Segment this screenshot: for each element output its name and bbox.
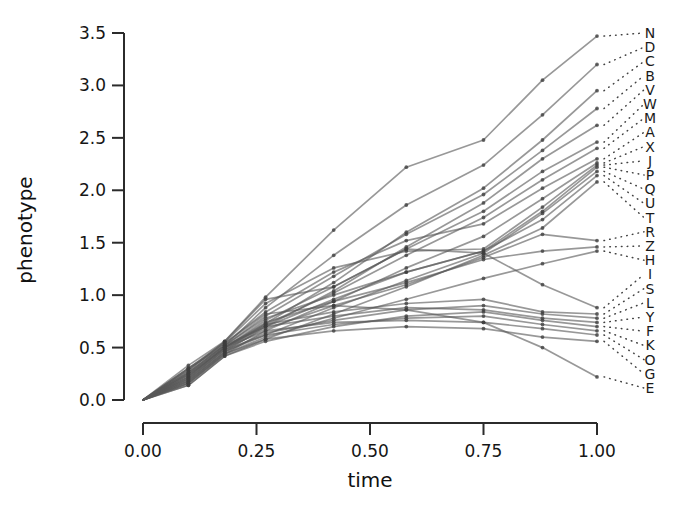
trajectory-vertex [595,174,599,178]
trajectory-vertex [595,249,599,253]
trajectory-vertex [541,327,545,331]
trajectory-vertex [404,318,408,322]
trajectory-vertex [332,321,336,325]
trajectory-vertex [332,285,336,289]
trajectory-vertex [541,212,545,216]
trajectory-vertex [482,193,486,197]
trajectory-vertex [187,381,191,385]
trajectory-vertex [187,373,191,377]
trajectory-vertex [541,149,545,153]
trajectory-vertex [595,316,599,320]
trajectory-vertex [264,312,268,316]
trajectory-vertex [482,216,486,220]
trajectory-vertex [482,186,486,190]
trajectory-vertex [541,323,545,327]
leader-line-Z [604,246,644,247]
leader-line-I [604,274,644,307]
trajectory-vertex [404,302,408,306]
trajectory-vertex [541,170,545,174]
trajectory-vertex [595,306,599,310]
trajectory-vertex [404,239,408,243]
trajectory-vertex [187,367,191,371]
trajectory-vertex [482,209,486,213]
leader-line-X [604,147,644,163]
leader-line-Y [604,317,644,322]
y-axis-tick-label: 2.0 [79,180,106,200]
trajectory-vertex [404,297,408,301]
leader-line-G [604,341,644,374]
trajectory-vertex [482,314,486,318]
trajectory-vertex [223,342,227,346]
trajectory-vertex [332,329,336,333]
trajectory-vertex [541,346,545,350]
trajectory-vertex [223,346,227,350]
trajectory-vertex [404,270,408,274]
trajectory-vertex [595,123,599,127]
trajectory-vertex [264,302,268,306]
trajectory-vertex [595,375,599,379]
trajectory-vertex [541,226,545,230]
trajectory-vertex [595,329,599,333]
trajectory-vertex [404,165,408,169]
trajectory-vertex [541,78,545,82]
trajectory-vertex [482,304,486,308]
trajectory-vertex [482,235,486,239]
trajectory-vertex [541,232,545,236]
trajectory-vertex [541,205,545,209]
trajectory-vertex [541,113,545,117]
trajectory-vertex [482,258,486,262]
trajectory-vertex [595,165,599,169]
trajectory-vertex [223,352,227,356]
trajectory-line-N [143,36,597,400]
trajectory-line-I [143,249,597,400]
trajectory-vertex [541,318,545,322]
trajectory-vertex [332,314,336,318]
trajectory-vertex [332,281,336,285]
trajectory-vertex [595,333,599,337]
trajectory-vertex [187,377,191,381]
trajectory-vertex [595,63,599,67]
trajectory-vertex [264,333,268,337]
x-axis-title: time [347,468,392,492]
trajectory-plot: 0.00.51.01.52.02.53.03.50.000.250.500.75… [0,0,689,517]
series-label-E: E [646,380,655,396]
trajectory-vertex [404,232,408,236]
trajectory-vertex [541,283,545,287]
trajectory-vertex [332,310,336,314]
trajectory-vertex [541,249,545,253]
y-axis-tick-label: 0.5 [79,338,106,358]
trajectory-vertex [264,297,268,301]
leader-line-M [604,118,644,148]
trajectory-vertex [482,310,486,314]
y-axis-tick-label: 1.0 [79,285,106,305]
leader-line-H [604,251,644,260]
y-axis-tick-label: 2.5 [79,128,106,148]
leader-line-A [604,132,644,158]
trajectory-vertex [332,266,336,270]
x-axis-tick-label: 0.50 [351,441,389,461]
leader-line-F [604,327,644,332]
trajectory-vertex [404,203,408,207]
trajectory-vertex [541,262,545,266]
trajectory-vertex [595,312,599,316]
trajectory-vertex [482,138,486,142]
trajectory-vertex [595,170,599,174]
trajectory-vertex [404,308,408,312]
trajectory-vertex [595,325,599,329]
trajectory-vertex [595,146,599,150]
trajectory-vertex [404,253,408,257]
trajectory-vertex [595,180,599,184]
trajectory-vertex [332,304,336,308]
x-axis-tick-label: 1.00 [578,441,616,461]
trajectory-vertex [264,329,268,333]
trajectory-vertex [332,293,336,297]
trajectory-lines-group [143,36,597,400]
trajectory-vertex [482,163,486,167]
trajectory-vertex [264,337,268,341]
trajectory-vertex [595,89,599,93]
y-axis-tick-label: 0.0 [79,390,106,410]
trajectory-vertex [482,327,486,331]
trajectory-vertex [541,178,545,182]
trajectory-line-E [143,306,597,400]
trajectory-vertex [332,253,336,257]
